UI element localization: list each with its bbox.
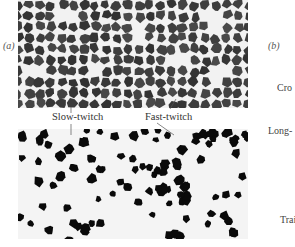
side-label-long: Long- xyxy=(268,125,292,136)
side-label-train: Trai xyxy=(280,214,295,225)
leader-lines xyxy=(0,0,295,247)
slow-twitch-label: Slow-twitch xyxy=(52,111,103,122)
panel-a-label: (a) xyxy=(3,40,15,51)
panel-b-label: (b) xyxy=(268,40,280,51)
side-label-cross: Cro xyxy=(277,82,292,93)
fast-twitch-leader-down xyxy=(157,123,174,135)
fast-twitch-leader-up xyxy=(170,99,176,109)
fast-twitch-label: Fast-twitch xyxy=(145,111,192,122)
